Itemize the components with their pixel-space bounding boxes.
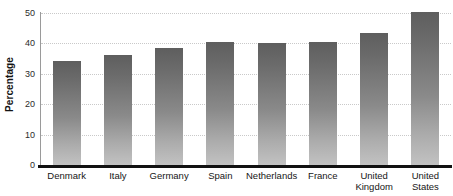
x-tick-slot: Spain xyxy=(195,170,246,196)
x-axis-baseline xyxy=(38,165,452,168)
x-tick-slot: France xyxy=(297,170,348,196)
x-tick-label-italy: Italy xyxy=(92,170,143,181)
bar-slot xyxy=(297,13,348,165)
x-tick-label-denmark: Denmark xyxy=(41,170,92,181)
x-tick-slot: United States xyxy=(400,170,451,196)
x-tick-label-united-states: United States xyxy=(400,170,451,192)
x-tick-label-spain: Spain xyxy=(195,170,246,181)
bar-germany[interactable] xyxy=(155,48,183,165)
x-tick-label-united-kingdom: United Kingdom xyxy=(349,170,400,192)
x-axis-tick-labels: DenmarkItalyGermanySpainNetherlandsFranc… xyxy=(41,170,451,196)
x-tick-label-netherlands: Netherlands xyxy=(246,170,297,181)
x-tick-slot: Netherlands xyxy=(246,170,297,196)
bar-netherlands[interactable] xyxy=(258,43,286,166)
bar-spain[interactable] xyxy=(206,42,234,165)
bar-united-kingdom[interactable] xyxy=(360,33,388,165)
y-tick-label: 10 xyxy=(25,130,35,139)
bar-italy[interactable] xyxy=(104,55,132,165)
bar-denmark[interactable] xyxy=(53,61,81,165)
bar-chart: Percentage 01020304050 DenmarkItalyGerma… xyxy=(0,0,453,196)
y-tick-label: 30 xyxy=(25,69,35,78)
x-tick-slot: United Kingdom xyxy=(349,170,400,196)
x-tick-slot: Denmark xyxy=(41,170,92,196)
y-tick-label: 20 xyxy=(25,100,35,109)
bar-slot xyxy=(195,13,246,165)
x-tick-label-germany: Germany xyxy=(144,170,195,181)
bar-slot xyxy=(41,13,92,165)
y-axis-title: Percentage xyxy=(0,0,18,168)
bar-slot xyxy=(400,13,451,165)
bars-container xyxy=(41,13,451,165)
x-tick-slot: Italy xyxy=(92,170,143,196)
bar-slot xyxy=(92,13,143,165)
bar-slot xyxy=(144,13,195,165)
x-tick-label-france: France xyxy=(297,170,348,181)
bar-slot xyxy=(349,13,400,165)
bar-france[interactable] xyxy=(309,42,337,165)
y-tick-label: 0 xyxy=(30,161,35,170)
y-tick-label: 40 xyxy=(25,39,35,48)
y-axis-tick-labels: 01020304050 xyxy=(18,0,38,168)
x-tick-slot: Germany xyxy=(144,170,195,196)
bar-united-states[interactable] xyxy=(411,12,439,165)
bar-slot xyxy=(246,13,297,165)
y-axis-title-label: Percentage xyxy=(4,57,15,112)
y-tick-label: 50 xyxy=(25,9,35,18)
